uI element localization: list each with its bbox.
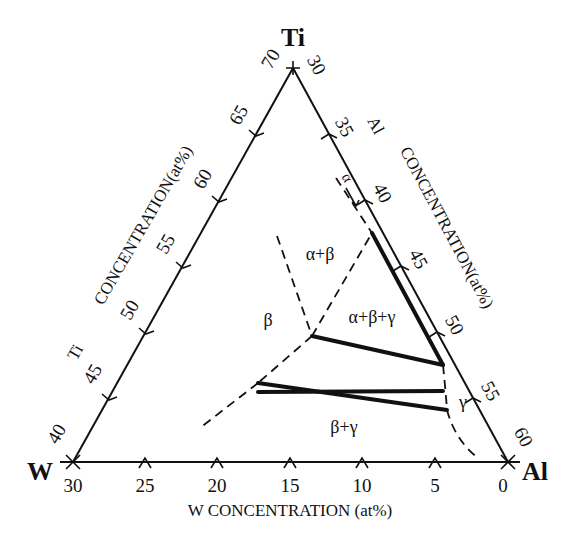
right-tick-label: 45 [405,246,432,273]
right-tick-label: 50 [441,312,468,339]
phase-label-beta-gamma: β+γ [330,417,357,437]
phase-label-alpha-beta: α+β [306,244,335,264]
right-axis-title-prefix: Al [363,113,388,137]
left-tick-label: 40 [43,420,71,447]
alpha-boundary [336,178,372,233]
tie-line-triangle-base [312,336,443,365]
phase-label-beta: β [263,310,272,330]
right-tick-label: 30 [303,52,330,79]
bottom-axis-title: W CONCENTRATION (at%) [188,501,393,520]
bottom-tick-label: 25 [136,475,155,496]
ti-corner-cross [286,61,300,75]
ternary-diagram: Ti W Al 30 25 20 15 10 5 0 W CONCENTRATI… [0,0,571,545]
bottom-tick-label: 10 [353,475,372,496]
right-tick-label: 40 [369,180,396,207]
corner-label-al: Al [522,457,548,486]
tie-line-right [372,233,443,365]
corner-markers [66,61,515,469]
bottom-tick-label: 5 [430,475,440,496]
left-tick-label: 55 [152,230,180,257]
left-tick-label: 65 [225,101,253,128]
left-tick-label: 60 [189,165,217,192]
bottom-tick-label: 20 [208,475,227,496]
phase-label-alpha: α [339,170,357,185]
corner-label-w: W [27,457,53,486]
tie-line-lower-2 [258,391,443,392]
bottom-tick-labels: 30 25 20 15 10 5 0 [64,475,508,496]
left-tick-label: 50 [116,296,144,323]
bottom-tick-label: 30 [64,475,83,496]
corner-label-ti: Ti [281,23,305,52]
phase-label-alpha-beta-gamma: α+β+γ [349,307,396,327]
right-tick-label: 55 [477,378,504,405]
right-tick-label: 60 [510,424,537,451]
bottom-tick-label: 0 [498,475,508,496]
left-axis-title-prefix: Ti [63,341,87,363]
tie-line-lower-1 [258,383,447,410]
left-tick-labels: 40 45 50 55 60 65 70 [43,45,285,447]
left-tick-label: 45 [79,360,107,387]
left-axis-title: CONCENTRATION(at%) [90,142,197,308]
beta-beta-gamma-boundary-upper [258,336,312,383]
bottom-tick-label: 15 [281,475,300,496]
left-axis-line [73,68,293,462]
beta-beta-gamma-boundary-lower [200,383,258,428]
phase-label-gamma: γ [458,392,467,412]
